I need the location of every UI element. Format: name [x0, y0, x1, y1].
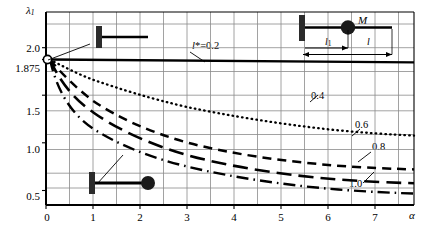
inset-beam-end-mass [89, 172, 155, 194]
curve-06 [50, 60, 414, 170]
inset-beam-intermediate-mass [299, 15, 392, 57]
chart-canvas [0, 0, 428, 239]
chart-figure: λ1 2.0 1.875 1.5 1.0 0.5 0 1 2 3 4 5 6 7… [0, 0, 428, 239]
curve-04 [50, 60, 414, 136]
curve-l02 [50, 60, 414, 63]
curve-08 [50, 60, 414, 184]
